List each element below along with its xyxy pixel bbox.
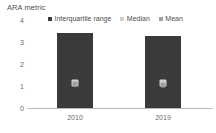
plot-area: 0 1 2 3 4 2010 2019 xyxy=(0,0,216,133)
x-axis-tick-label-2019: 2019 xyxy=(155,114,171,121)
x-axis-baseline xyxy=(27,108,213,109)
y-axis-tick-label-2: 2 xyxy=(2,61,24,68)
bar-iqr-2019[interactable] xyxy=(145,36,181,108)
y-axis-tick-label-3: 3 xyxy=(2,39,24,46)
y-axis-tick-label-1: 1 xyxy=(2,83,24,90)
bar-iqr-2010[interactable] xyxy=(57,33,93,108)
ara-metric-chart: ARA metric Interquartile range Median Me… xyxy=(0,0,216,133)
x-axis-tick-label-2010: 2010 xyxy=(67,114,83,121)
marker-mean-2010[interactable] xyxy=(73,82,78,87)
y-axis-tick-label-0: 0 xyxy=(2,105,24,112)
y-axis-tick-label-4: 4 xyxy=(2,17,24,24)
marker-mean-2019[interactable] xyxy=(161,82,166,87)
